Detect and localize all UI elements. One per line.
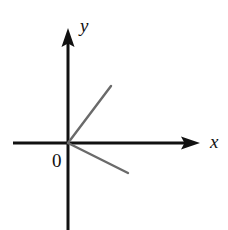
coordinate-axes-diagram: y x 0 (0, 0, 228, 230)
origin-label: 0 (52, 150, 62, 171)
y-axis-label: y (78, 15, 89, 36)
x-axis-label: x (209, 131, 219, 152)
figure-background (0, 0, 228, 230)
figure-container: y x 0 (0, 0, 228, 230)
